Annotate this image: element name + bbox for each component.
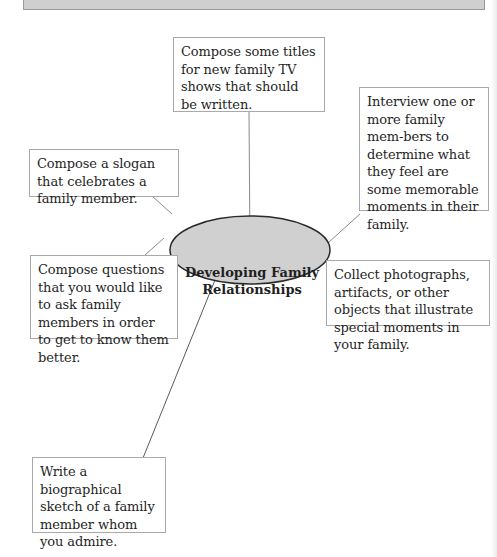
node-collect: Collect photographs, artifacts, or other… [326, 260, 490, 326]
center-topic-line1: Developing Family [185, 264, 319, 281]
node-biography: Write a biographical sketch of a family … [32, 457, 166, 533]
node-questions: Compose questions that you would like to… [30, 255, 178, 339]
node-tv-titles: Compose some titles for new family TV sh… [173, 37, 325, 112]
center-topic-line2: Relationships [185, 281, 319, 298]
node-slogan: Compose a slogan that celebrates a famil… [29, 149, 179, 197]
node-interview: Interview one or more family mem-bers to… [359, 87, 489, 211]
center-topic: Developing Family Relationships [160, 247, 344, 315]
